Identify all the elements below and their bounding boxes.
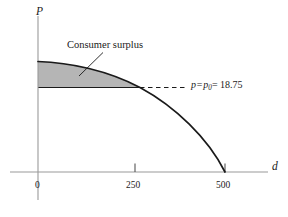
consumer-surplus-figure: P d 0 250 500 Consumer surplus p = p0= 1…	[0, 0, 288, 217]
consumer-surplus-region	[38, 62, 140, 88]
y-axis-label: P	[36, 6, 43, 18]
plot-canvas	[0, 0, 288, 217]
x-axis-label: d	[272, 161, 278, 173]
x-tick-label-250: 250	[126, 181, 140, 191]
price-line-label: p = p0= 18.75	[191, 80, 243, 92]
consumer-surplus-label: Consumer surplus	[67, 40, 143, 51]
x-tick-label-0: 0	[35, 181, 40, 191]
x-tick-label-500: 500	[216, 181, 230, 191]
price-symbol-p: p	[191, 79, 196, 90]
price-value: = 18.75	[212, 79, 243, 90]
